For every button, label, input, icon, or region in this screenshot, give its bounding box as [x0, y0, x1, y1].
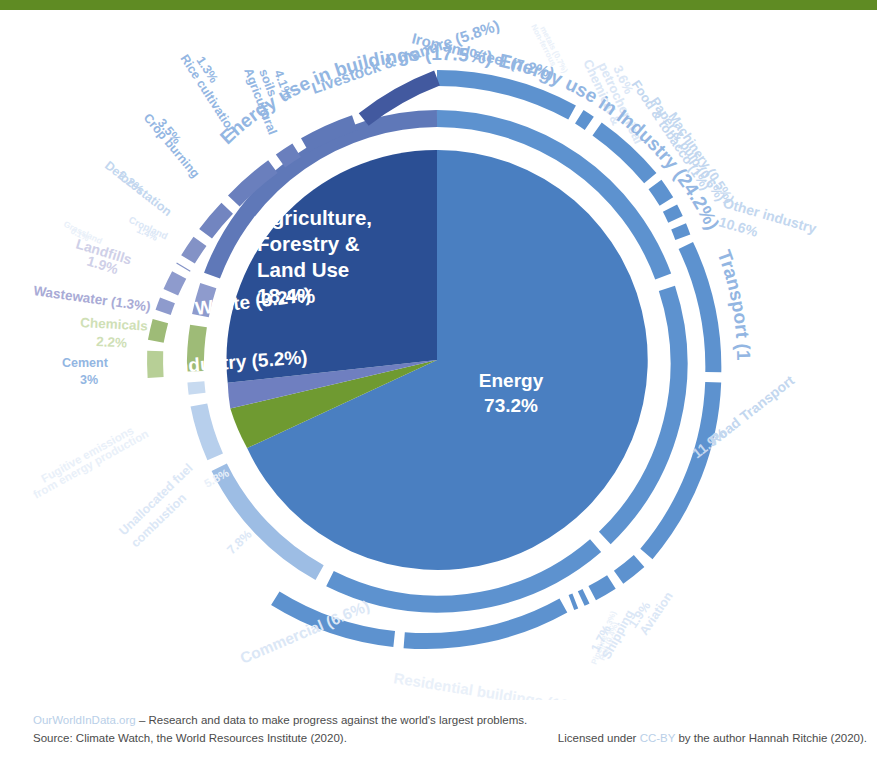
outer-other-industry[interactable]	[686, 246, 714, 373]
outer-shipping[interactable]	[592, 582, 611, 593]
label-crop-burning-l1: Crop burning	[141, 111, 203, 181]
outer-machinery[interactable]	[679, 226, 683, 237]
pie-label-energy-value: 73.2%	[484, 395, 538, 416]
outer-cropland[interactable]	[188, 241, 200, 259]
label-cement-l1: Cement	[62, 356, 109, 370]
footer-line-1: OurWorldInData.org – Research and data t…	[33, 714, 527, 726]
label-residential: Residential buildings (10.9%)	[393, 669, 601, 700]
outer-paper-pulp[interactable]	[670, 208, 676, 219]
emissions-sunburst-chart: Agriculture, Forestry & Land Use 18.4% W…	[0, 10, 877, 700]
license-post: by the author Hannah Ritchie (2020).	[675, 732, 867, 744]
pie-label-energy-name: Energy	[479, 370, 544, 391]
outer-aviation[interactable]	[619, 561, 640, 577]
outer-nonferrous[interactable]	[579, 117, 589, 124]
pie-label-agriculture-l3: Land Use	[257, 258, 349, 281]
label-chemicals-l2: 2.2%	[96, 334, 128, 351]
label-cement-l2: 3%	[80, 373, 98, 387]
footer-line-1-rest: – Research and data to make progress aga…	[136, 714, 527, 726]
outer-rail[interactable]	[581, 596, 586, 598]
pie-label-agriculture-l2: Forestry &	[257, 232, 360, 255]
outer-deforestation[interactable]	[206, 208, 228, 234]
label-wastewater: Wastewater (1.3%)	[33, 283, 152, 314]
cc-by-link[interactable]: CC-BY	[640, 732, 676, 744]
mid-fugitive[interactable]	[199, 405, 215, 457]
outer-landfills[interactable]	[171, 275, 179, 292]
outer-wastewater[interactable]	[163, 300, 167, 312]
outer-rice[interactable]	[281, 150, 297, 161]
outer-grassland[interactable]	[183, 267, 184, 268]
outer-food-tobacco[interactable]	[655, 185, 666, 202]
label-fugitive-l2: from energy production	[31, 427, 150, 500]
mid-energy-agri-fishing[interactable]	[196, 382, 197, 394]
pie-label-agriculture-l1: Agriculture,	[257, 206, 372, 229]
label-fugitive-l1: Fugitive emissions	[39, 424, 135, 485]
footer-license: Licensed under CC-BY by the author Hanna…	[558, 732, 867, 744]
footer-source: Source: Climate Watch, the World Resourc…	[33, 732, 347, 744]
outer-cement[interactable]	[155, 351, 156, 377]
label-unallocated-l3: 7.8%	[224, 527, 254, 557]
top-accent-bar	[0, 0, 877, 10]
license-pre: Licensed under	[558, 732, 640, 744]
footer: OurWorldInData.org – Research and data t…	[0, 700, 877, 760]
ourworldindata-link[interactable]: OurWorldInData.org	[33, 714, 136, 726]
donut-svg: Agriculture, Forestry & Land Use 18.4% W…	[0, 10, 877, 700]
outer-pipeline[interactable]	[571, 601, 575, 603]
label-chemicals-l1: Chemicals	[80, 315, 148, 334]
outer-chemicals[interactable]	[156, 321, 161, 341]
